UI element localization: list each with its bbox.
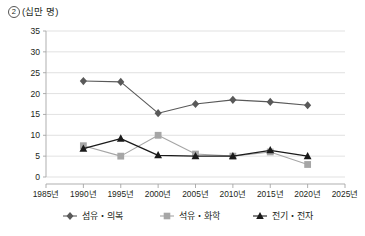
x-tick-label: 1995년 <box>107 189 134 199</box>
y-axis-tick-labels: 05101520253035 <box>30 26 40 182</box>
y-tick-label: 0 <box>35 172 40 182</box>
data-series <box>80 132 311 168</box>
x-tick-label: 2010년 <box>220 189 247 199</box>
legend-marker-icon <box>67 212 74 220</box>
legend-marker-icon <box>164 213 171 220</box>
line-chart-plot: 05101520253035 1985년1990년1995년2000년2005년… <box>0 0 365 236</box>
chart-legend: 섬유・의복석유・화학전기・전자 <box>63 211 314 221</box>
y-tick-label: 20 <box>30 89 40 99</box>
data-series <box>79 134 311 159</box>
legend-marker-icon <box>256 212 264 219</box>
x-tick-label: 2000년 <box>145 189 172 199</box>
x-axis-tick-labels: 1985년1990년1995년2000년2005년2010년2015년2020년… <box>33 189 359 199</box>
x-tick-label: 2015년 <box>257 189 284 199</box>
data-point-marker <box>117 153 124 160</box>
legend-label: 석유・화학 <box>179 211 220 221</box>
data-point-marker <box>304 161 311 168</box>
y-tick-label: 35 <box>30 26 40 36</box>
legend-item[interactable]: 전기・전자 <box>253 211 314 221</box>
x-tick-label: 1990년 <box>70 189 97 199</box>
x-tick-label: 2020년 <box>294 189 321 199</box>
x-axis-group <box>46 31 345 188</box>
data-point-marker <box>304 101 311 109</box>
legend-label: 전기・전자 <box>272 211 314 221</box>
data-point-marker <box>80 77 87 85</box>
data-point-marker <box>155 109 162 117</box>
legend-item[interactable]: 석유・화학 <box>160 211 220 221</box>
y-tick-label: 5 <box>35 151 40 161</box>
data-point-marker <box>117 78 124 86</box>
legend-label: 섬유・의복 <box>82 211 123 221</box>
y-tick-label: 10 <box>30 130 40 140</box>
data-point-marker <box>267 98 274 106</box>
chart-container: 2(십만 명) 05101520253035 1985년1990년1995년20… <box>0 0 365 236</box>
series-line <box>83 81 307 113</box>
x-tick-label: 2005년 <box>182 189 209 199</box>
data-point-marker <box>192 100 199 108</box>
y-tick-label: 25 <box>30 68 40 78</box>
data-series-group <box>79 77 311 168</box>
legend-item[interactable]: 섬유・의복 <box>63 211 123 221</box>
x-tick-label: 2025년 <box>332 189 359 199</box>
y-tick-label: 15 <box>30 109 40 119</box>
data-series <box>80 77 311 117</box>
x-tick-label: 1985년 <box>33 189 60 199</box>
y-tick-label: 30 <box>30 47 40 57</box>
data-point-marker <box>229 96 236 104</box>
data-point-marker <box>155 132 162 139</box>
